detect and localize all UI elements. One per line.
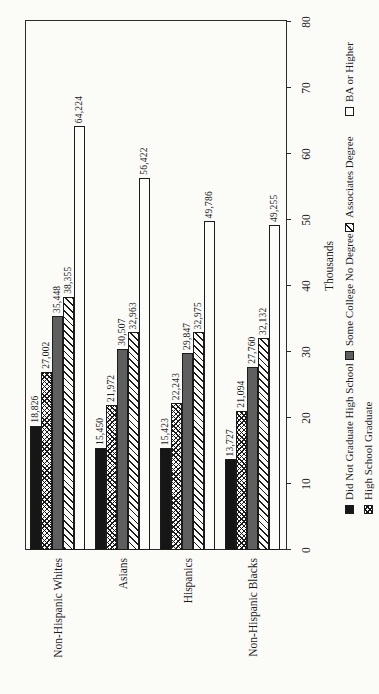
tick-mark (286, 351, 291, 352)
bar-value-label: 35,448 (52, 286, 63, 313)
bar-value-label: 13,727 (225, 429, 236, 456)
legend-marker-cross-icon (364, 505, 373, 514)
tick-label: 10 (300, 469, 312, 499)
tick-label: 40 (300, 271, 312, 301)
legend-marker-white-icon (345, 107, 354, 116)
bar-value-label: 49,786 (204, 191, 215, 218)
bar-white (269, 225, 280, 550)
bar-value-label: 15,450 (95, 418, 106, 445)
bar-value-label: 18,826 (30, 395, 41, 422)
bar-gray (117, 349, 128, 550)
bar-diag (193, 332, 204, 550)
legend-item: BA or Higher (343, 42, 356, 116)
bar-cross (236, 411, 247, 550)
tick-mark (286, 153, 291, 154)
bar-value-label: 32,132 (258, 308, 269, 335)
tick-mark (286, 417, 291, 418)
bar-value-label: 38,355 (63, 267, 74, 294)
tick-mark (286, 21, 291, 22)
bar-value-label: 27,760 (247, 336, 258, 363)
bar-gray (52, 316, 63, 550)
bar-white (74, 126, 85, 550)
tick-label: 50 (300, 205, 312, 235)
tick-label: 60 (300, 139, 312, 169)
category-label: Hispanics (182, 558, 195, 694)
bar-diag (258, 338, 269, 550)
bar-gray (182, 353, 193, 550)
legend-label: Did Not Graduate High School (343, 363, 356, 500)
bar-black (225, 459, 236, 550)
tick-label: 70 (300, 73, 312, 103)
tick-mark (286, 285, 291, 286)
legend-item: Some College No Degree (343, 233, 356, 360)
axis-title: Thousands (323, 186, 336, 346)
tick-mark (286, 219, 291, 220)
bar-value-label: 29,847 (182, 323, 193, 350)
bar-value-label: 32,963 (128, 302, 139, 329)
tick-mark (286, 87, 291, 88)
tick-mark (286, 483, 291, 484)
legend-label: Some College No Degree (343, 233, 356, 346)
bar-black (95, 448, 106, 550)
tick-label: 0 (300, 535, 312, 565)
category-label: Non-Hispanic Whites (52, 558, 65, 694)
legend-item: Did Not Graduate High School (343, 363, 356, 514)
bar-value-label: 15,423 (160, 418, 171, 445)
bar-value-label: 56,422 (139, 147, 150, 174)
category-label: Non-Hispanic Blacks (247, 558, 260, 694)
category-label: Asians (117, 558, 130, 694)
bar-value-label: 21,972 (106, 375, 117, 402)
tick-label: 80 (300, 7, 312, 37)
bar-cross (106, 405, 117, 550)
bar-value-label: 21,094 (236, 380, 247, 407)
bar-diag (128, 332, 139, 550)
legend-marker-gray-icon (345, 351, 354, 360)
bar-black (30, 426, 41, 550)
bar-diag (63, 297, 74, 550)
bar-gray (247, 367, 258, 550)
tick-label: 30 (300, 337, 312, 367)
bar-white (139, 178, 150, 550)
legend-label: Associates Degree (343, 136, 356, 218)
bar-value-label: 32,975 (193, 302, 204, 329)
legend-item: Associates Degree (343, 136, 356, 232)
rotated-bar-chart: Thousands Non-Hispanic Whites18,82627,00… (0, 0, 379, 694)
legend-marker-black-icon (345, 505, 354, 514)
bar-cross (41, 372, 52, 550)
bar-cross (171, 403, 182, 550)
bar-black (160, 448, 171, 550)
tick-mark (286, 549, 291, 550)
legend-item: High School Graduate (362, 402, 375, 514)
bar-value-label: 64,224 (74, 96, 85, 123)
bar-value-label: 49,255 (269, 195, 280, 222)
bar-value-label: 22,243 (171, 373, 182, 400)
bar-value-label: 30,507 (117, 318, 128, 345)
legend-marker-diag-icon (345, 223, 354, 232)
tick-label: 20 (300, 403, 312, 433)
bar-value-label: 27,002 (41, 341, 52, 368)
bar-white (204, 221, 215, 550)
legend-label: BA or Higher (343, 42, 356, 102)
legend-label: High School Graduate (362, 402, 375, 500)
